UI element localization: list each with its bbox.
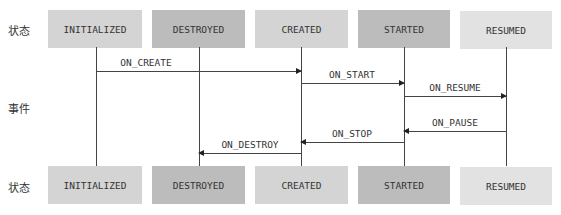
row-label-top-state: 状态 (8, 22, 30, 38)
top-state-destroyed: DESTROYED (152, 10, 245, 48)
top-state-created: CREATED (255, 10, 348, 48)
lifeline-initialized (96, 47, 97, 166)
arrowhead-right-icon (501, 93, 507, 99)
arrowhead-right-icon (399, 80, 405, 86)
arrowhead-right-icon (296, 68, 302, 74)
arrow-on-start (301, 83, 404, 84)
bottom-state-destroyed: DESTROYED (152, 166, 245, 204)
arrow-on-pause (404, 131, 506, 132)
arrowhead-left-icon (403, 128, 409, 134)
arrowhead-left-icon (198, 150, 204, 156)
top-state-initialized: INITIALIZED (48, 10, 142, 48)
arrow-on-create (96, 71, 301, 72)
bottom-state-created: CREATED (255, 166, 348, 204)
arrowhead-left-icon (300, 139, 306, 145)
event-label-on-resume: ON_RESUME (429, 82, 480, 93)
arrow-on-stop (301, 142, 404, 143)
arrow-on-destroy (199, 153, 301, 154)
lifeline-destroyed (199, 47, 200, 166)
event-label-on-stop: ON_STOP (332, 128, 372, 139)
bottom-state-initialized: INITIALIZED (48, 166, 142, 204)
event-label-on-start: ON_START (329, 69, 375, 80)
top-state-started: STARTED (358, 10, 450, 48)
lifeline-resumed (506, 47, 507, 166)
bottom-state-resumed: RESUMED (460, 167, 552, 205)
event-label-on-pause: ON_PAUSE (432, 117, 478, 128)
arrow-on-resume (404, 96, 506, 97)
lifeline-started (404, 47, 405, 166)
top-state-resumed: RESUMED (460, 11, 552, 49)
row-label-event: 事件 (8, 100, 30, 116)
event-label-on-create: ON_CREATE (120, 57, 171, 68)
bottom-state-started: STARTED (358, 166, 450, 204)
row-label-bottom-state: 状态 (8, 179, 30, 195)
lifeline-created (301, 47, 302, 166)
event-label-on-destroy: ON_DESTROY (221, 139, 278, 150)
